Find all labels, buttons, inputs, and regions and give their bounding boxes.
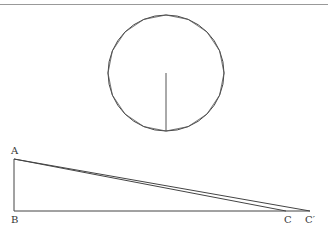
label-C: C <box>284 214 292 225</box>
label-A: A <box>11 145 18 156</box>
diagram-canvas <box>0 0 328 234</box>
hypotenuse-AC-prime <box>14 159 310 211</box>
hypotenuse-AC <box>14 159 286 211</box>
label-C-prime: C′ <box>305 214 315 225</box>
label-B: B <box>11 214 18 225</box>
